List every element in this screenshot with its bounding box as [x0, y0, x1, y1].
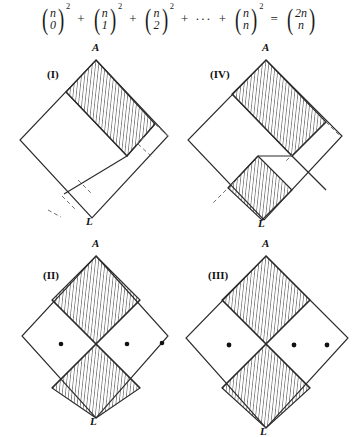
dot-marker-center-right: [292, 343, 297, 348]
vertex-label-l: L: [86, 216, 93, 227]
panel-4-diagram: A L (IV): [186, 52, 350, 232]
vertex-label-a: A: [262, 238, 269, 249]
binomial-coefficient-n-2: (n2)2: [143, 4, 174, 34]
vertex-label-l: L: [260, 426, 267, 437]
binomial-coefficient-n-0: (n0)2: [40, 4, 71, 34]
right-paren: ): [162, 4, 168, 34]
dot-marker-left: [227, 343, 232, 348]
panel-4-shapes: [188, 60, 342, 220]
dot-marker-right: [325, 343, 330, 348]
vertex-label-a: A: [262, 42, 269, 53]
panel-1-diagram: A L (I): [16, 52, 176, 232]
binomial-coefficient-2n-n: (2nn): [285, 4, 317, 34]
figure-root: (n0)2 + (n1)2 + (n2)2 + ··· + (nn)2 = (2…: [0, 0, 357, 437]
partition-line-lower: [64, 156, 127, 194]
ellipsis: ···: [195, 11, 212, 27]
vertex-label-l: L: [90, 416, 97, 427]
hatched-quadrant-top: [222, 256, 310, 344]
left-paren: (: [145, 4, 151, 34]
panel-2-diagram: A L (II): [16, 248, 176, 434]
right-paren: ): [251, 4, 257, 34]
operator-plus-2: +: [129, 11, 136, 27]
binomial-coefficient-n-1: (n1)2: [92, 4, 123, 34]
left-paren: (: [42, 4, 48, 34]
panel-roman-label-1: (I): [47, 69, 59, 80]
panel-roman-label-2: (II): [43, 270, 59, 281]
binomial-identity-formula: (n0)2 + (n1)2 + (n2)2 + ··· + (nn)2 = (2…: [0, 4, 357, 34]
binom-exponent: 2: [118, 1, 122, 11]
vertex-label-a: A: [92, 42, 99, 53]
left-paren: (: [235, 4, 241, 34]
binom-bottom: n: [295, 19, 307, 31]
panel-roman-label-4: (IV): [210, 69, 230, 80]
hatched-quadrant-bottom: [52, 344, 140, 418]
operator-equals: =: [271, 11, 278, 27]
vertex-label-l: L: [258, 218, 265, 229]
dot-marker-center-right: [125, 342, 130, 347]
binomial-coefficient-n-n: (nn)2: [233, 4, 264, 34]
dot-marker-right-vertex: [160, 341, 165, 346]
hatched-quadrant-top: [52, 256, 140, 344]
panel-1-svg: [16, 52, 176, 232]
operator-plus-3: +: [181, 11, 188, 27]
dot-marker-left: [59, 342, 64, 347]
panel-3-diagram: A L (III): [186, 248, 350, 434]
hatched-band-bottom: [228, 156, 292, 220]
hatched-quadrant-bottom: [222, 344, 310, 428]
left-paren: (: [287, 4, 293, 34]
binom-bottom: n: [243, 19, 249, 31]
right-paren: ): [58, 4, 64, 34]
operator-plus-1: +: [77, 11, 84, 27]
panel-3-shapes: [186, 256, 348, 428]
operator-plus-4: +: [219, 11, 226, 27]
binom-bottom: 2: [154, 19, 160, 31]
vertex-label-a: A: [92, 238, 99, 249]
panel-2-svg: [16, 248, 176, 434]
right-paren: ): [309, 4, 315, 34]
binom-exponent: 2: [66, 1, 70, 11]
binom-bottom: 1: [102, 19, 108, 31]
identity-formula-band: (n0)2 + (n1)2 + (n2)2 + ··· + (nn)2 = (2…: [0, 0, 357, 46]
left-paren: (: [94, 4, 100, 34]
right-paren: ): [110, 4, 116, 34]
panel-1-shapes: [20, 60, 168, 218]
binom-bottom: 0: [50, 19, 56, 31]
panel-roman-label-3: (III): [208, 270, 228, 281]
binom-exponent: 2: [259, 1, 263, 11]
binom-exponent: 2: [170, 1, 174, 11]
